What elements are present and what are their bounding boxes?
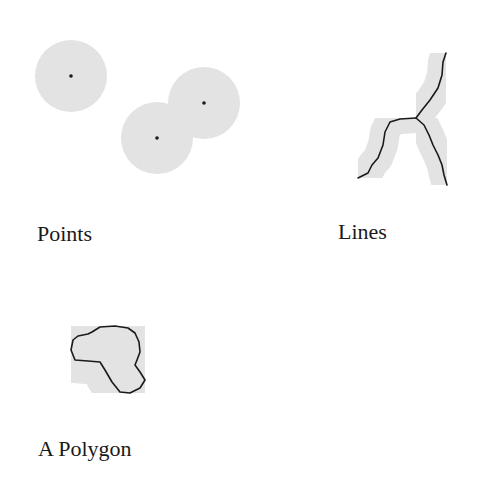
polygon-buffer	[71, 326, 145, 393]
lines-label: Lines	[338, 221, 387, 243]
polygon-label: A Polygon	[38, 438, 132, 460]
line-buffer	[416, 118, 447, 185]
point-feature	[69, 74, 73, 78]
point-feature	[202, 101, 206, 105]
lines-panel	[358, 53, 447, 185]
point-feature	[155, 136, 159, 140]
polygon-panel	[71, 326, 145, 393]
points-panel	[35, 40, 240, 174]
points-label: Points	[37, 223, 92, 245]
